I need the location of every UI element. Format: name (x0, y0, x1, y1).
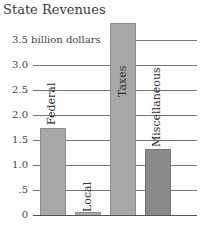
y-tick-3.5: 3.5 billion dollars (12, 35, 101, 45)
bar-label-local: Local (82, 182, 94, 212)
y-tick-2.0: 2.0 (0, 110, 28, 120)
y-tick-2.5: 2.5 (0, 85, 28, 95)
bar-label-miscellaneous: Miscellaneous (151, 67, 163, 147)
bar-miscellaneous (145, 149, 171, 216)
bar-label-taxes: Taxes (117, 66, 129, 97)
bar-label-federal: Federal (46, 83, 58, 125)
gridline-3.5 (136, 40, 197, 41)
bar-federal (40, 128, 66, 216)
y-tick-3.0: 3.0 (0, 60, 28, 70)
baseline (33, 215, 197, 216)
y-tick-0: 0 (0, 210, 28, 220)
y-tick-0.5: .5 (0, 185, 28, 195)
chart-title: State Revenues (3, 2, 106, 17)
y-tick-1.0: 1.0 (0, 160, 28, 170)
y-tick-1.5: 1.5 (0, 135, 28, 145)
bar-taxes (110, 23, 136, 216)
